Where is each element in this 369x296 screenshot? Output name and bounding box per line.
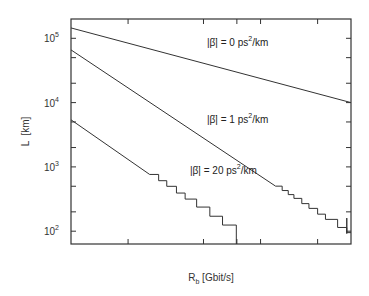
x-axis-label: Rb [Gbit/s] (188, 272, 234, 285)
annotation-text: /km (252, 114, 268, 125)
series-beta-20 (71, 120, 236, 244)
y-tick-base: 10 (44, 226, 56, 237)
y-tick-exp: 4 (55, 96, 59, 103)
series-annotation: |β̈| = 20 ps2/km (190, 163, 257, 176)
annotation-text: |β̈| = 1 ps (207, 114, 248, 125)
chart: 102103104105 |β̈| = 0 ps2/km|β̈| = 1 ps2… (0, 0, 369, 296)
annotation-text: /km (252, 37, 268, 48)
y-tick-label: 104 (44, 96, 59, 109)
series-beta-1 (71, 50, 351, 234)
annotation-text: |β̈| = 0 ps (207, 37, 248, 48)
y-tick-label: 103 (44, 160, 59, 173)
y-tick-base: 10 (44, 98, 56, 109)
y-tick-base: 10 (44, 162, 56, 173)
y-tick-label: 102 (44, 224, 59, 237)
y-axis-label: L [km] (20, 116, 31, 146)
y-tick-exp: 5 (55, 31, 59, 38)
x-axis-label-main: R (188, 272, 195, 283)
y-tick-label: 105 (44, 31, 59, 44)
axis-labels: Rb [Gbit/s]L [km] (20, 116, 234, 285)
series-annotation: |β̈| = 1 ps2/km (207, 112, 268, 125)
y-tick-exp: 3 (55, 160, 59, 167)
annotation-text: /km (241, 165, 257, 176)
series-annotation: |β̈| = 0 ps2/km (207, 35, 268, 48)
x-axis-label-rest: [Gbit/s] (199, 272, 234, 283)
axis-ticks: 102103104105 (44, 19, 351, 244)
data-series: |β̈| = 0 ps2/km|β̈| = 1 ps2/km|β̈| = 20 … (71, 28, 351, 244)
plot-border (71, 19, 351, 244)
y-tick-base: 10 (44, 33, 56, 44)
y-tick-exp: 2 (55, 224, 59, 231)
annotation-text: |β̈| = 20 ps (190, 165, 237, 176)
plot-frame (71, 19, 351, 244)
